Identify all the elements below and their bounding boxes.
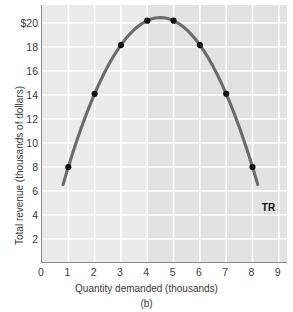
x-tick-label: 5 [165,266,181,278]
y-tick-label: 2 [0,234,38,244]
data-point [118,42,124,48]
chart-canvas [42,5,287,263]
x-tick-label: 2 [86,266,102,278]
data-point [170,18,176,24]
x-axis-tick-labels: 0123456789 [0,266,293,282]
x-tick-label: 0 [33,266,49,278]
y-tick-label: 8 [0,162,38,172]
x-tick-label: 7 [217,266,233,278]
data-point [223,91,229,97]
x-tick-label: 4 [138,266,154,278]
x-tick-label: 1 [59,266,75,278]
x-tick-label: 9 [270,266,286,278]
plot-area: TR [41,5,287,263]
y-tick-label: 12 [0,114,38,124]
y-axis-tick-labels: 24681012141618$20 [0,0,38,265]
data-point [144,18,150,24]
data-point [197,42,203,48]
x-tick-label: 3 [112,266,128,278]
y-tick-label: 14 [0,90,38,100]
y-tick-label: 10 [0,138,38,148]
panel-caption: (b) [0,298,293,309]
x-tick-label: 8 [243,266,259,278]
y-tick-label: 18 [0,42,38,52]
shaded-band [147,5,287,263]
data-point [65,164,71,170]
x-axis-label: Quantity demanded (thousands) [0,283,293,294]
y-tick-label: 4 [0,210,38,220]
x-tick-label: 6 [191,266,207,278]
data-point [249,164,255,170]
y-tick-label: 16 [0,66,38,76]
series-label-tr: TR [262,202,276,213]
chart-figure: Total revenue (thousands of dollars) 246… [0,0,293,312]
y-tick-label: $20 [0,18,38,28]
y-tick-label: 6 [0,186,38,196]
data-point [92,91,98,97]
